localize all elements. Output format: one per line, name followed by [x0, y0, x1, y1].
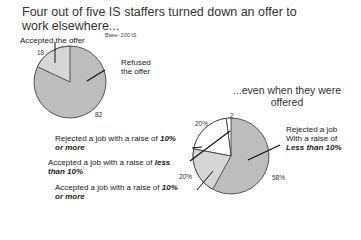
pie2-value-rejected-less: 58% [272, 174, 285, 181]
pie1-label-refused: Refused the offer [121, 58, 161, 76]
pie2-label-rejected-less: Rejected a job With a raise of Less than… [286, 125, 342, 152]
pie2-label-accepted-less: Accepted a job with a raise of less than… [48, 158, 170, 176]
pie2-value-rejected-more: 2 [230, 112, 234, 119]
pie2-label-accepted-more: Accepted a job with a raise of 10% or mo… [55, 183, 178, 201]
pie2-label-rejected-more: Rejected a job with a raise of 10% or mo… [55, 134, 176, 152]
pie1-value-refused: 82 [95, 111, 102, 118]
pie2-subtitle: ...even when they were offered [232, 84, 342, 108]
pie2-value-accepted-less: 20% [195, 120, 208, 127]
pie2-value-accepted-more: 20% [179, 173, 192, 180]
pie1-value-accepted: 18 [37, 49, 44, 56]
pie-chart-1 [34, 42, 106, 118]
pie-chart-2 [190, 118, 280, 194]
pie1-label-accepted: Accepted the offer [20, 36, 85, 45]
